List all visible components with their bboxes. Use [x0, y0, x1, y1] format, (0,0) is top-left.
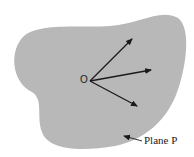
plane-label: Plane P — [144, 134, 177, 146]
origin-label: O — [80, 74, 88, 85]
plane-p-region — [14, 15, 186, 149]
